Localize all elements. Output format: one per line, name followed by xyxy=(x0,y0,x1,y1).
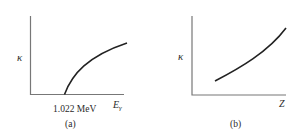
panel-b-x-label: Z xyxy=(279,98,285,109)
panel-a-curve xyxy=(65,43,128,95)
panel-b-curve xyxy=(215,28,286,81)
panel-a: κ Eγ 1.022 MeV (a) xyxy=(17,16,127,130)
panel-b-y-label: κ xyxy=(178,50,184,62)
panel-b-axes xyxy=(192,16,286,95)
figure: κ Eγ 1.022 MeV (a) κ Z (b) xyxy=(0,0,305,139)
panel-a-caption: (a) xyxy=(65,119,76,130)
panel-a-axes xyxy=(31,16,125,95)
panel-b: κ Z (b) xyxy=(178,16,286,130)
panel-a-y-label: κ xyxy=(17,51,23,63)
panel-b-caption: (b) xyxy=(230,119,241,130)
panel-a-threshold-label: 1.022 MeV xyxy=(53,104,96,114)
panel-a-x-label: Eγ xyxy=(112,99,122,112)
